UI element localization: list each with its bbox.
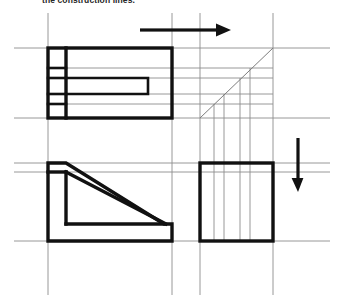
vertical-projection-arrow [292,138,304,192]
vertical-arrow-shaft [296,138,299,180]
side-view-outline [200,163,273,241]
front-view-diagonal [66,172,166,224]
side-view [200,163,273,241]
horizontal-arrow-head [216,24,231,37]
horizontal-projection-arrow [140,24,231,37]
top-view [48,48,172,118]
technical-drawing-page: the construction lines. [0,0,337,304]
forty-five-degree-miter-line [200,48,273,118]
front-view [48,163,172,241]
top-view-inner-slot [66,78,148,94]
vertical-construction-lines [48,13,273,295]
orthographic-projection-drawing [0,0,337,304]
horizontal-arrow-shaft [140,28,218,31]
vertical-arrow-head [292,178,304,192]
top-view-internal-detail [48,68,148,104]
